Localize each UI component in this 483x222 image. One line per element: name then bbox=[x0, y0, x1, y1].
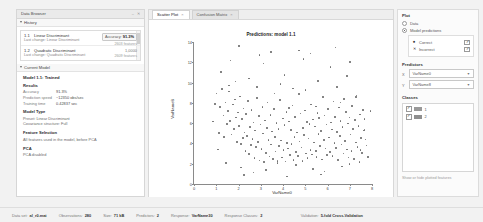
current-model-section-header[interactable]: Current Model bbox=[17, 64, 144, 72]
scatter-point bbox=[317, 80, 319, 82]
scatter-point bbox=[355, 96, 357, 98]
scatter-point bbox=[274, 136, 276, 138]
x-tick-label: 2 bbox=[237, 186, 239, 191]
data-browser-title: Data Browser bbox=[21, 10, 132, 18]
radio-model-predictions[interactable]: Model predictions bbox=[402, 28, 474, 33]
scatter-point bbox=[270, 144, 272, 146]
checkbox-icon[interactable] bbox=[406, 114, 412, 120]
scatter-point bbox=[292, 105, 294, 107]
close-icon[interactable]: × bbox=[230, 11, 232, 19]
scatter-point bbox=[306, 121, 308, 123]
close-icon[interactable]: ✕ bbox=[137, 10, 140, 18]
scatter-point bbox=[300, 113, 302, 115]
history-item-change-value: Quadratic Discriminant bbox=[47, 53, 85, 57]
scatter-point bbox=[319, 145, 321, 147]
scatter-point bbox=[223, 115, 225, 117]
scatter-point bbox=[229, 120, 231, 122]
class-row-2[interactable]: 2 bbox=[406, 114, 470, 120]
predictors-group: Predictors X VarName0 ▼ Y VarName8 ▼ bbox=[398, 57, 478, 92]
scatter-point bbox=[280, 83, 282, 85]
scatter-point bbox=[297, 155, 299, 157]
tab-scatter-plot[interactable]: Scatter Plot × bbox=[152, 10, 190, 19]
result-key: Training time bbox=[23, 101, 56, 106]
accuracy-badge: Accuracy: 91.3% bbox=[102, 33, 137, 41]
scatter-point bbox=[227, 110, 229, 112]
scatter-point bbox=[244, 132, 246, 134]
scatter-point bbox=[286, 111, 288, 113]
scatter-point bbox=[340, 102, 342, 104]
scatter-point bbox=[362, 109, 364, 111]
y-tick-mark bbox=[192, 62, 194, 63]
scatter-point bbox=[330, 122, 332, 124]
history-item-change-label: Last change: bbox=[24, 38, 46, 42]
scatter-point bbox=[268, 139, 270, 141]
scatter-point bbox=[317, 112, 319, 114]
status-response-classes: Response Classes:2 bbox=[225, 213, 263, 218]
radio-data[interactable]: Data bbox=[402, 21, 474, 26]
prediction-marker-box: ● Correct ✕ Incorrect bbox=[408, 35, 474, 57]
tab-confusion-matrix[interactable]: Confusion Matrix × bbox=[192, 10, 239, 19]
scatter-point bbox=[245, 150, 247, 152]
scatter-point bbox=[331, 129, 333, 131]
results-header: Results bbox=[23, 83, 138, 88]
scatter-plot-canvas[interactable]: Predictions: model 1.1 VarName8 VarName0… bbox=[149, 20, 393, 197]
history-section-header[interactable]: History bbox=[17, 19, 144, 27]
checkbox-icon[interactable] bbox=[406, 106, 412, 112]
scatter-point bbox=[360, 137, 362, 139]
scatter-point bbox=[355, 142, 357, 144]
scatter-point bbox=[366, 145, 368, 147]
history-item-change-label: Last change: bbox=[24, 53, 46, 57]
scatter-point bbox=[238, 125, 240, 127]
checkbox-icon[interactable] bbox=[464, 47, 470, 53]
scatter-point bbox=[304, 110, 306, 112]
scatter-point bbox=[314, 126, 316, 128]
scatter-point bbox=[311, 154, 313, 156]
history-item-2[interactable]: 1.2 Quadratic Discriminant Last change: … bbox=[21, 45, 140, 60]
result-key: Accuracy bbox=[23, 89, 56, 94]
scatter-point bbox=[348, 157, 350, 159]
scatter-point bbox=[285, 161, 287, 163]
y-predictor-select[interactable]: VarName8 ▼ bbox=[409, 80, 475, 89]
close-icon[interactable]: × bbox=[181, 11, 183, 19]
scatter-point bbox=[349, 117, 351, 119]
minimize-icon[interactable]: – bbox=[132, 10, 134, 18]
scatter-point bbox=[277, 162, 279, 164]
scatter-point bbox=[313, 142, 315, 144]
scatter-point bbox=[328, 137, 330, 139]
scatter-point bbox=[286, 142, 288, 144]
chevron-down-icon: ▼ bbox=[467, 83, 470, 87]
scatter-point bbox=[312, 119, 314, 121]
scatter-point bbox=[344, 140, 346, 142]
scatter-point bbox=[309, 123, 311, 125]
classes-list[interactable]: 1 2 bbox=[402, 103, 474, 172]
status-value: 5-fold Cross-Validation bbox=[321, 213, 363, 218]
scatter-point bbox=[298, 50, 300, 52]
scatter-point bbox=[292, 88, 294, 90]
pca-line: PCA disabled bbox=[23, 152, 138, 158]
scatter-point bbox=[240, 143, 242, 145]
scatter-point bbox=[296, 132, 298, 134]
status-key: Response Classes: bbox=[225, 213, 259, 218]
y-tick-label: 12 bbox=[188, 60, 192, 65]
scatter-point bbox=[294, 116, 296, 118]
prediction-row-incorrect[interactable]: ✕ Incorrect bbox=[412, 47, 470, 53]
scatter-point bbox=[272, 158, 274, 160]
history-item-1[interactable]: 1.1 Linear Discriminant Last change: Lin… bbox=[21, 31, 140, 45]
status-observations: Observations:280 bbox=[59, 213, 92, 218]
class-row-1[interactable]: 1 bbox=[406, 106, 470, 112]
scatter-point bbox=[294, 136, 296, 138]
checkbox-icon[interactable] bbox=[464, 40, 470, 46]
y-tick-mark bbox=[192, 164, 194, 165]
x-predictor-select[interactable]: VarName0 ▼ bbox=[409, 69, 475, 78]
scatter-point bbox=[287, 148, 289, 150]
y-tick-label: 2 bbox=[190, 161, 192, 166]
x-tick-label: 7 bbox=[349, 186, 351, 191]
prediction-row-correct[interactable]: ● Correct bbox=[412, 40, 470, 46]
window-controls[interactable]: – ✕ bbox=[132, 10, 140, 18]
scatter-point bbox=[279, 99, 281, 101]
scatter-point bbox=[354, 119, 356, 121]
scatter-point bbox=[295, 164, 297, 166]
scatter-point bbox=[263, 63, 265, 65]
status-value: 2 bbox=[260, 213, 262, 218]
history-item-change-value: Linear Discriminant bbox=[47, 38, 80, 42]
